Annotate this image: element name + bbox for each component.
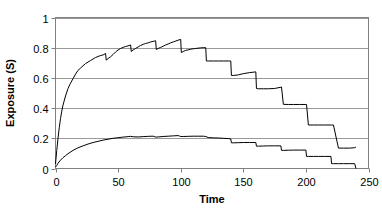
chart-canvas: 050100150200250 00.20.40.60.81 Time Expo…: [0, 0, 382, 214]
x-tick-label: 0: [53, 176, 59, 188]
y-tick-label: 0.4: [33, 103, 48, 115]
x-tick-label: 50: [112, 176, 124, 188]
y-tick-label: 0.2: [33, 133, 48, 145]
x-tick-label: 100: [172, 176, 190, 188]
x-tick-label: 150: [234, 176, 252, 188]
chart-figure: 050100150200250 00.20.40.60.81 Time Expo…: [0, 0, 382, 214]
y-tick-label: 0.6: [33, 73, 48, 85]
x-axis-title: Time: [199, 193, 224, 205]
y-axis-title: Exposure (S): [4, 59, 16, 127]
y-tick-label: 0: [42, 164, 48, 176]
y-tick-label: 1: [42, 13, 48, 25]
x-tick-label: 250: [360, 176, 378, 188]
x-tick-label: 200: [297, 176, 315, 188]
y-tick-label: 0.8: [33, 43, 48, 55]
